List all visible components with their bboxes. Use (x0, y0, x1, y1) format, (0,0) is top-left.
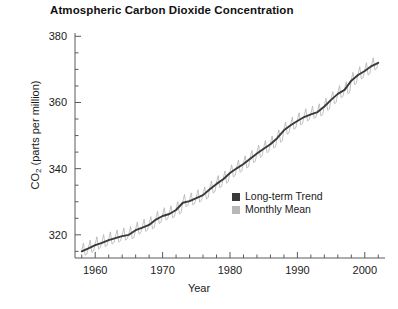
x-tick-label: 1990 (285, 264, 309, 276)
chart-legend: Long-term TrendMonthly Mean (232, 190, 323, 215)
long-term-trend-series (82, 63, 379, 252)
axes (75, 33, 385, 258)
legend-label: Long-term Trend (245, 190, 323, 202)
y-tick-label: 360 (49, 96, 67, 108)
x-tick-label: 1970 (150, 264, 174, 276)
x-tick-label: 1980 (218, 264, 242, 276)
y-tick-label: 340 (49, 163, 67, 175)
tick-labels: 32034036038019601970198019902000 (49, 30, 377, 276)
chart-figure: Atmospheric Carbon Dioxide Concentration… (0, 0, 398, 309)
y-tick-label: 380 (49, 30, 67, 42)
legend-swatch (232, 206, 240, 214)
legend-label: Monthly Mean (245, 203, 311, 215)
legend-swatch (232, 193, 240, 201)
x-tick-label: 2000 (353, 264, 377, 276)
y-tick-label: 320 (49, 229, 67, 241)
plot-area: 32034036038019601970198019902000 Long-te… (0, 0, 398, 309)
x-tick-label: 1960 (83, 264, 107, 276)
monthly-mean-series (82, 58, 379, 256)
